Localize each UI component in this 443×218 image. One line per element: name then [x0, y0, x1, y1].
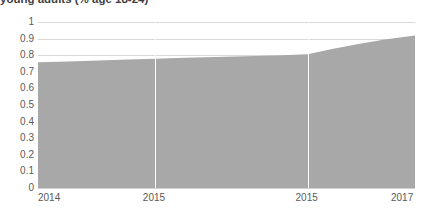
y-axis-tick-label: 0.6 [2, 83, 34, 93]
gridline-vertical [308, 22, 309, 188]
x-axis-tick-label: 2017 [391, 192, 413, 204]
area-series [38, 22, 415, 188]
x-axis-tick-label: 2015 [296, 192, 318, 204]
y-axis-tick-label: 1 [2, 17, 34, 27]
y-axis: 10.90.80.70.60.50.40.30.20.10 [0, 0, 34, 218]
y-axis-tick-label: 0.4 [2, 117, 34, 127]
plot-area [38, 22, 415, 188]
y-axis-tick-label: 0.1 [2, 166, 34, 176]
area-fill [38, 36, 415, 188]
y-axis-tick-label: 0.2 [2, 150, 34, 160]
gridline-vertical [155, 22, 156, 188]
y-axis-tick-label: 0.7 [2, 67, 34, 77]
y-axis-tick-label: 0.5 [2, 100, 34, 110]
area-chart: young adults (% age 18-24) 10.90.80.70.6… [0, 0, 443, 218]
x-axis-tick-label: 2014 [38, 192, 60, 204]
x-axis-baseline [38, 188, 415, 189]
chart-title: young adults (% age 18-24) [0, 0, 300, 7]
x-axis-tick-label: 2015 [143, 192, 165, 204]
y-axis-tick-label: 0.8 [2, 50, 34, 60]
x-axis: 2014201520152017 [0, 192, 443, 208]
y-axis-tick-label: 0.3 [2, 133, 34, 143]
y-axis-tick-label: 0.9 [2, 34, 34, 44]
